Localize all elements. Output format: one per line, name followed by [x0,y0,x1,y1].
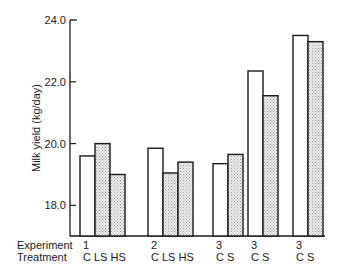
bar-exp3-c [293,35,308,236]
bar-exp2-ls [163,173,178,236]
experiment-row-label: Experiment [17,239,73,251]
experiment-label: 3 [251,239,257,251]
bar-exp3-s [228,154,243,236]
category-labels: ExperimentTreatment1C LS HS2C LS HS3C S3… [17,239,314,263]
experiment-label: 2 [151,239,157,251]
experiment-label: 3 [216,239,222,251]
milk-yield-bar-chart: Milk yield (kg/day) 24.022.020.018.0 Exp… [0,0,339,278]
bar-exp1-hs [110,175,125,237]
bar-exp2-c [148,148,163,236]
treatment-label: C LS HS [151,251,194,263]
treatment-label: C LS HS [83,251,126,263]
treatment-label: C S [296,251,314,263]
bar-exp1-c [80,156,95,236]
y-axis-label: Milk yield (kg/day) [30,84,42,172]
y-tick-label: 22.0 [45,76,66,88]
y-axis-ticks: 24.022.020.018.0 [45,14,76,211]
experiment-label: 1 [83,239,89,251]
bar-exp1-ls [95,144,110,236]
y-tick-label: 18.0 [45,199,66,211]
treatment-row-label: Treatment [17,251,67,263]
treatment-label: C S [216,251,234,263]
bar-exp3-c [213,164,228,236]
y-tick-label: 20.0 [45,138,66,150]
bars [80,35,323,236]
y-tick-label: 24.0 [45,14,66,26]
bar-exp3-s [308,42,323,236]
experiment-label: 3 [296,239,302,251]
bar-exp2-hs [178,162,193,236]
treatment-label: C S [251,251,269,263]
bar-exp3-s [263,96,278,236]
bar-exp3-c [248,71,263,236]
